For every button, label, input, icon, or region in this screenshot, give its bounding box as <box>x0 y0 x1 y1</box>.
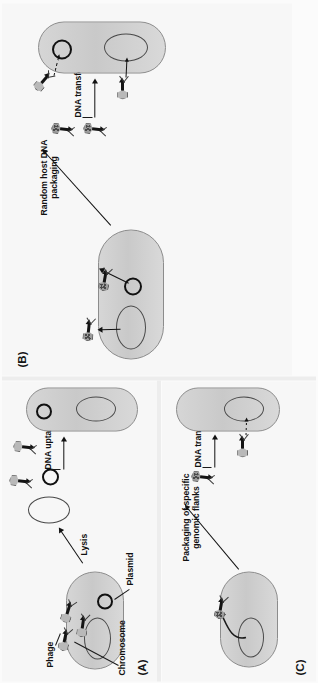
panel-b-packaging-label: Random host DNA packaging <box>40 127 59 227</box>
panel-c: (C) Packaging of specific genomi <box>162 381 316 681</box>
panel-b-injecting-phage-1 <box>116 77 132 99</box>
panel-c-transducing-phage <box>190 469 214 487</box>
panel-b-injection-arrow-1 <box>122 55 130 77</box>
panel-c-label: (C) <box>294 659 306 675</box>
figure-canvas: (A) <box>0 0 318 683</box>
panel-a-dna-uptake-arrow <box>59 435 68 469</box>
panel-a-recipient-chromosome <box>76 396 116 421</box>
panel-b: (B) <box>2 3 292 375</box>
panel-a-donor-phage-3 <box>75 614 94 638</box>
panel-b-dna-transfer-tick <box>83 117 93 118</box>
panel-b-donor-phage-1 <box>81 318 99 342</box>
panel-a-recipient-plasmid <box>36 403 52 419</box>
panel-a-released-plasmid <box>42 468 59 485</box>
figure-rotation-wrapper: (A) <box>0 0 318 683</box>
panel-row-divider <box>157 380 161 681</box>
panel-a-plasmid-label: Plasmid <box>126 552 136 585</box>
panel-c-dna-transfer-tick <box>203 467 212 468</box>
panel-a-free-phage-2 <box>12 439 36 457</box>
panel-b-donor-chromosome <box>116 305 146 349</box>
panel-b-label: (B) <box>16 351 28 367</box>
panel-c-dna-transfer-arrow <box>210 433 219 467</box>
panel-b-chromosome-to-phage-arrow <box>96 325 120 335</box>
panel-c-donor-chromosome <box>238 617 264 657</box>
panel-b-free-phage-2 <box>50 121 74 139</box>
panel-column-divider <box>2 376 316 380</box>
panel-a-lysis-label: Lysis <box>80 533 90 555</box>
phage-head-icon <box>117 90 128 100</box>
panel-a-donor-plasmid <box>97 593 113 609</box>
panel-a-label: (A) <box>136 659 148 675</box>
panel-a: (A) <box>2 381 157 681</box>
panel-c-injection-arrow <box>242 415 250 435</box>
phage-head-icon <box>237 448 248 458</box>
panel-a-released-chromosome <box>28 496 70 523</box>
panel-c-injecting-phage <box>236 435 252 457</box>
panel-a-chromosome-label: Chromosome <box>118 620 128 675</box>
panel-b-free-phage-1 <box>82 121 106 139</box>
panel-a-free-phage-1 <box>8 473 32 491</box>
panel-b-dna-transfer-arrow <box>90 77 99 117</box>
